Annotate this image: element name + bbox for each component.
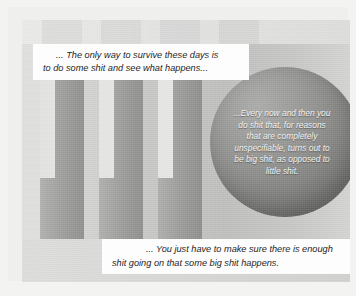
figure-page: ...Every now and then you do shit that, … [0, 0, 356, 296]
callout-bottom-quote: ... You just have to make sure there is … [102, 239, 350, 274]
callout-line: ...Every now and then you [218, 108, 346, 120]
figure-frame: ...Every now and then you do shit that, … [8, 7, 348, 281]
callout-line: little shit. [218, 166, 346, 178]
background-top-cap [160, 20, 200, 44]
callout-line: shit going on that some big shit happens… [112, 257, 350, 271]
callout-line: that are completely [218, 131, 346, 143]
background-top-cap [42, 20, 82, 44]
background-light-column [40, 67, 55, 178]
background-light-column [99, 67, 114, 178]
callout-line: unspecifiable, turns out to [218, 143, 346, 155]
callout-line: ... You just have to make sure there is … [112, 243, 350, 257]
background-top-cap [101, 20, 141, 44]
callout-top-quote: ... The only way to survive these days i… [33, 44, 249, 80]
callout-line: ... The only way to survive these days i… [43, 49, 249, 63]
callout-line: do shit that, for reasons [218, 120, 346, 132]
callout-line: to do some shit and see what happens... [43, 62, 249, 76]
background-top-cap [219, 20, 259, 44]
callout-sphere-quote: ...Every now and then you do shit that, … [218, 108, 346, 178]
background-light-column [158, 67, 173, 178]
callout-line: be big shit, as opposed to [218, 154, 346, 166]
